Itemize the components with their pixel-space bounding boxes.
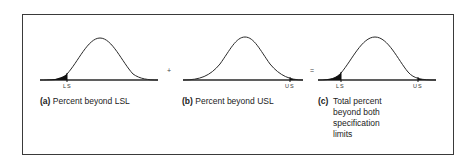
- panel-b-curve: [183, 37, 303, 82]
- caption-c-line-4: limits: [333, 129, 382, 140]
- caption-c-line-2: beyond both: [333, 107, 382, 118]
- equals-operator: =: [310, 67, 314, 74]
- left-tail-shade: [40, 74, 67, 80]
- panel-c-curve: [318, 37, 436, 82]
- plus-operator: +: [167, 67, 171, 74]
- caption-b-tag: (b): [182, 96, 193, 106]
- panel-a-curve: [40, 38, 158, 82]
- caption-b-text: Percent beyond USL: [195, 96, 273, 106]
- caption-c-line-3: specification: [333, 118, 382, 129]
- caption-a-tag: (a): [40, 96, 50, 106]
- lsl-label-c: LS: [336, 83, 345, 89]
- caption-b: (b) Percent beyond USL: [182, 96, 274, 107]
- lsl-label-a: LS: [63, 83, 72, 89]
- caption-c-tag: (c): [318, 96, 331, 140]
- caption-c: (c) Total percent beyond both specificat…: [318, 96, 382, 140]
- usl-label-b: US: [285, 83, 295, 89]
- normal-curves-diagram: [0, 0, 476, 160]
- caption-a-text: Percent beyond LSL: [53, 96, 130, 106]
- caption-a: (a) Percent beyond LSL: [40, 96, 130, 107]
- caption-c-line-1: Total percent: [333, 96, 382, 107]
- usl-label-c: US: [413, 83, 423, 89]
